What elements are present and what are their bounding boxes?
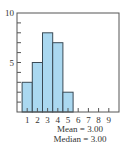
histogram-chart: 510 123456789 bbox=[0, 0, 127, 124]
x-tick-label: 3 bbox=[45, 115, 50, 124]
y-tick-label: 10 bbox=[5, 8, 15, 18]
median-label: Median = 3.00 bbox=[40, 134, 120, 144]
histogram-bar-4 bbox=[53, 43, 63, 112]
x-tick-label: 8 bbox=[96, 115, 101, 124]
x-tick-label: 5 bbox=[66, 115, 71, 124]
mean-label: Mean = 3.00 bbox=[40, 124, 120, 134]
x-tick-label: 6 bbox=[76, 115, 81, 124]
histogram-bars bbox=[22, 33, 73, 112]
y-tick-label: 5 bbox=[10, 58, 15, 68]
x-tick-label: 7 bbox=[86, 115, 91, 124]
histogram-bar-2 bbox=[32, 63, 42, 113]
x-tick-label: 1 bbox=[25, 115, 30, 124]
x-tick-label: 2 bbox=[35, 115, 40, 124]
x-tick-label: 9 bbox=[107, 115, 112, 124]
y-axis-ticks: 510 bbox=[5, 8, 21, 102]
histogram-bar-3 bbox=[43, 33, 53, 112]
histogram-bar-1 bbox=[22, 82, 32, 112]
x-tick-label: 4 bbox=[56, 115, 61, 124]
